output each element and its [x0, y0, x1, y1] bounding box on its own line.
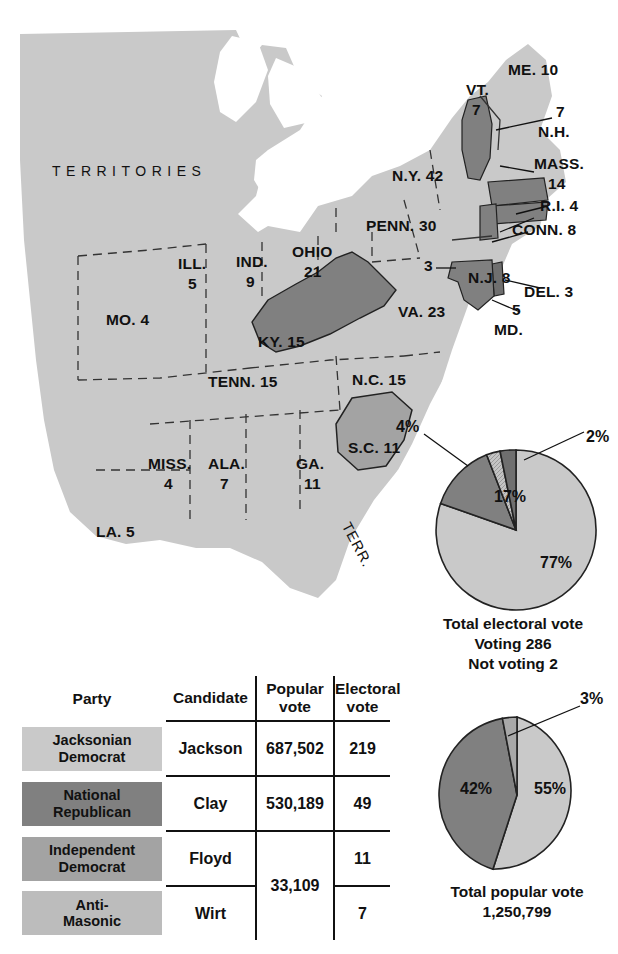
- map-label-missouri: MO. 4: [106, 312, 149, 328]
- map-label-newhampshire-name: N.H.: [538, 124, 570, 140]
- party-name-line1: National: [63, 787, 120, 803]
- map-label-kentucky: KY. 15: [258, 334, 305, 350]
- map-label-delaware: DEL. 3: [524, 284, 573, 300]
- electoral-pie-chart: 17% 77% 4% 2%: [432, 442, 600, 612]
- party-cell-anti-masonic: Anti- Masonic: [18, 886, 166, 940]
- map-label-newjersey: N.J. 8: [468, 270, 511, 286]
- map-label-ohio-name: OHIO: [292, 244, 332, 260]
- party-name-line1: Jacksonian: [53, 732, 132, 748]
- map-label-newyork: N.Y. 42: [392, 168, 443, 184]
- candidate-floyd: Floyd: [166, 831, 256, 886]
- popular-vote-clay: 530,189: [256, 776, 334, 831]
- electoral-vote-wirt: 7: [334, 886, 390, 940]
- map-label-connecticut: CONN. 8: [512, 222, 576, 238]
- party-swatch-anti-masonic: Anti- Masonic: [22, 891, 162, 935]
- map-label-illinois-name: ILL.: [178, 256, 206, 272]
- map-label-rhodeisland: R.I. 4: [540, 198, 578, 214]
- party-name-line1: Anti-: [75, 897, 108, 913]
- electoral-pie-notvoting: Not voting 2: [398, 654, 618, 674]
- pie-label-77: 77%: [540, 554, 572, 572]
- pie-leader-lines: [392, 416, 618, 476]
- results-table: Party Candidate Popular vote Electoral v…: [18, 676, 390, 940]
- map-label-newhampshire-votes: 7: [556, 104, 565, 120]
- header-popular-vote-line1: Popular: [257, 680, 333, 698]
- header-electoral-vote-line1: Electoral: [335, 680, 390, 698]
- map-label-pennsylvania: PENN. 30: [366, 218, 437, 234]
- table-row: Jacksonian Democrat Jackson 687,502 219: [18, 721, 390, 776]
- pie-label-17: 17%: [494, 488, 526, 506]
- header-candidate: Candidate: [166, 676, 256, 721]
- party-swatch-national-republican: National Republican: [22, 782, 162, 826]
- electoral-pie-title: Total electoral vote: [398, 614, 618, 634]
- pie-label-42: 42%: [460, 780, 492, 798]
- map-label-alabama-name: ALA.: [208, 456, 245, 472]
- party-cell-independent-democrat: Independent Democrat: [18, 831, 166, 886]
- electoral-pie-voting: Voting 286: [398, 634, 618, 654]
- election-map-infographic: TERRITORIES TERR. ME. 10 VT. 7 7 N.H. MA…: [0, 0, 618, 954]
- popular-pie-chart: 55% 42% 3%: [434, 712, 600, 878]
- electoral-vote-floyd: 11: [334, 831, 390, 886]
- header-popular-vote: Popular vote: [256, 676, 334, 721]
- map-label-vermont-votes: 7: [472, 102, 481, 118]
- electoral-vote-clay: 49: [334, 776, 390, 831]
- map-label-illinois-votes: 5: [188, 276, 197, 292]
- popular-pie-total: 1,250,799: [402, 902, 618, 922]
- map-label-georgia-name: GA.: [296, 456, 324, 472]
- map-label-mississippi-votes: 4: [164, 476, 173, 492]
- map-label-tennessee: TENN. 15: [208, 374, 278, 390]
- map-label-virginia: VA. 23: [398, 304, 445, 320]
- map-label-maine: ME. 10: [508, 62, 558, 78]
- map-label-alabama-votes: 7: [220, 476, 229, 492]
- party-cell-national-republican: National Republican: [18, 776, 166, 831]
- candidate-wirt: Wirt: [166, 886, 256, 940]
- map-label-mississippi-name: MISS.: [148, 456, 191, 472]
- map-label-territories: TERRITORIES: [52, 164, 206, 179]
- table-header-row: Party Candidate Popular vote Electoral v…: [18, 676, 390, 721]
- popular-vote-jackson: 687,502: [256, 721, 334, 776]
- party-name-line2: Republican: [53, 804, 131, 820]
- map-label-georgia-votes: 11: [304, 476, 321, 492]
- electoral-pie-caption: Total electoral vote Voting 286 Not voti…: [398, 614, 618, 673]
- map-label-delaware-leader: 3: [424, 258, 433, 274]
- popular-pie-leader-line: [494, 694, 604, 750]
- map-label-ohio-votes: 21: [304, 264, 322, 280]
- popular-pie-caption: Total popular vote 1,250,799: [402, 882, 618, 922]
- party-swatch-jacksonian: Jacksonian Democrat: [22, 727, 162, 771]
- results-table-container: Party Candidate Popular vote Electoral v…: [18, 676, 390, 932]
- party-name-line1: Independent: [49, 842, 135, 858]
- party-name-line2: Masonic: [63, 913, 121, 929]
- pie-label-55: 55%: [534, 780, 566, 798]
- map-label-massachusetts-name: MASS.: [534, 156, 584, 172]
- electoral-vote-jackson: 219: [334, 721, 390, 776]
- party-swatch-independent-democrat: Independent Democrat: [22, 837, 162, 881]
- map-label-louisiana: LA. 5: [96, 524, 135, 540]
- header-party: Party: [18, 676, 166, 721]
- party-cell-jacksonian: Jacksonian Democrat: [18, 721, 166, 776]
- map-label-massachusetts-votes: 14: [548, 176, 566, 192]
- map-label-northcarolina: N.C. 15: [352, 372, 406, 388]
- header-electoral-vote-line2: vote: [335, 698, 390, 716]
- table-row: Independent Democrat Floyd 33,109 11: [18, 831, 390, 886]
- table-row: National Republican Clay 530,189 49: [18, 776, 390, 831]
- popular-pie-title: Total popular vote: [402, 882, 618, 902]
- map-label-maryland-votes: 5: [512, 302, 521, 318]
- header-electoral-vote: Electoral vote: [334, 676, 390, 721]
- map-label-indiana-name: IND.: [236, 254, 268, 270]
- header-popular-vote-line2: vote: [257, 698, 333, 716]
- party-name-line2: Democrat: [59, 749, 126, 765]
- popular-vote-merged: 33,109: [256, 831, 334, 940]
- map-label-maryland-name: MD.: [494, 322, 523, 338]
- map-label-vermont-name: VT.: [466, 82, 489, 98]
- party-name-line2: Democrat: [59, 859, 126, 875]
- table-row: Anti- Masonic Wirt 7: [18, 886, 390, 940]
- candidate-jackson: Jackson: [166, 721, 256, 776]
- map-label-indiana-votes: 9: [246, 274, 255, 290]
- candidate-clay: Clay: [166, 776, 256, 831]
